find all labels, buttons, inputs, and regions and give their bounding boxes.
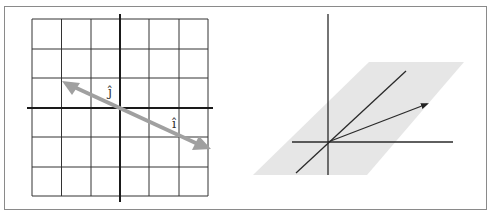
right-3d-plot [253,14,464,175]
j-hat-label: ĵ [106,84,112,99]
shaded-plane [253,62,464,175]
figure-canvas: ĵ î [0,0,491,215]
i-hat-label: î [172,116,177,131]
collapsed-basis-vector [62,81,211,150]
